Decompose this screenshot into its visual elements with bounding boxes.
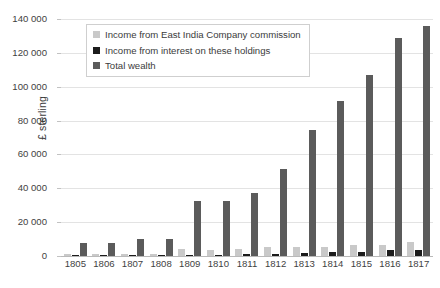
legend-item: Income from East India Company commissio… [93,30,301,40]
y-axis-tick-label: 100 000 [0,82,47,92]
x-axis-tick-label: 1811 [233,258,262,269]
bar [272,254,279,256]
legend-item-label: Income from interest on these holdings [105,46,270,56]
bar [387,250,394,256]
bar [166,239,173,256]
x-axis-tick-label: 1810 [204,258,233,269]
bar [100,255,107,256]
bar [150,254,157,256]
bar [215,255,222,256]
y-axis-tick-label: 0 [0,251,47,261]
bar-group [347,19,376,256]
bar [121,254,128,256]
bar [243,254,250,256]
bar [64,254,71,256]
x-axis-tick-label: 1809 [175,258,204,269]
bar [350,245,357,256]
bar [379,245,386,256]
bar [72,255,79,256]
x-axis-tick-label: 1816 [376,258,405,269]
bar [129,255,136,256]
bar [251,193,258,256]
bar [293,247,300,256]
bar [108,243,115,256]
y-axis-tick-label: 40 000 [0,183,47,193]
bar [235,249,242,256]
bar [207,250,214,256]
x-axis-tick-label: 1812 [261,258,290,269]
bar [309,130,316,256]
bar-group [318,19,347,256]
x-axis: 1805180618071808180918101811181218131814… [61,258,433,269]
bar [194,201,201,256]
bar [423,26,430,256]
bar [415,250,422,256]
x-axis-tick-label: 1807 [118,258,147,269]
bar [92,254,99,256]
y-axis-tick-mark [57,256,61,257]
bar [358,252,365,256]
x-axis-tick-label: 1817 [404,258,433,269]
bar [407,242,414,256]
bar [395,38,402,256]
legend-swatch-icon [93,31,100,38]
bar [280,169,287,256]
bar-group [404,19,433,256]
bar [329,252,336,256]
bar [301,253,308,256]
bar [321,247,328,256]
x-axis-tick-label: 1808 [147,258,176,269]
bar [186,255,193,256]
bar [366,75,373,256]
x-axis-tick-label: 1815 [347,258,376,269]
x-axis-tick-label: 1814 [318,258,347,269]
legend-swatch-icon [93,47,100,54]
legend-item: Total wealth [93,61,301,71]
bar [158,255,165,256]
y-axis-tick-label: 140 000 [0,14,47,24]
bar [80,243,87,256]
bar [137,239,144,256]
y-axis-tick-label: 60 000 [0,149,47,159]
y-axis-tick-label: 80 000 [0,116,47,126]
x-axis-tick-label: 1813 [290,258,319,269]
bar-group [376,19,405,256]
bar [337,101,344,256]
bar [264,247,271,256]
legend-item: Income from interest on these holdings [93,46,301,56]
legend-swatch-icon [93,62,100,69]
bar-chart: £ sterling 140 000120 000100 00080 00060… [0,0,440,288]
legend-item-label: Total wealth [105,61,156,71]
x-axis-tick-label: 1806 [90,258,119,269]
y-axis-tick-label: 20 000 [0,217,47,227]
legend-item-label: Income from East India Company commissio… [105,30,301,40]
x-axis-tick-label: 1805 [61,258,90,269]
chart-legend: Income from East India Company commissio… [86,24,310,77]
bar [223,201,230,256]
y-axis-tick-label: 120 000 [0,48,47,58]
bar [178,249,185,256]
gridline [61,256,433,257]
